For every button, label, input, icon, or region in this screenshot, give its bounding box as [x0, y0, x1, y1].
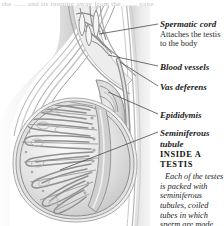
label-spermatic-cord: Spermatic cord Attaches the testis to th… — [160, 19, 220, 49]
label-blood-vessels: Blood vessels — [160, 62, 209, 73]
label-spermatic-cord-term: Spermatic cord — [160, 19, 220, 30]
note-heading-line1: INSIDE A — [160, 150, 224, 160]
label-spermatic-cord-desc-line1: Attaches the testis — [160, 30, 220, 40]
label-epididymis: Epididymis — [160, 110, 202, 121]
note-heading-line2: TESTIS — [160, 160, 224, 170]
label-epididymis-term: Epididymis — [160, 110, 202, 121]
label-spermatic-cord-desc-line2: to the body — [160, 39, 220, 49]
illustration-body — [0, 6, 150, 226]
testis-body — [13, 98, 137, 222]
testis-illustration — [0, 6, 150, 226]
label-seminiferous-tubule-term: Seminiferous tubule — [160, 128, 222, 149]
note-body-text: Each of the testes is packed with semini… — [160, 172, 224, 226]
figure-page: the ...... and its running away from the… — [0, 0, 224, 226]
label-seminiferous-tubule: Seminiferous tubule — [160, 128, 222, 149]
inside-a-testis-note: INSIDE A TESTIS Each of the testes is pa… — [160, 150, 224, 226]
label-vas-deferens: Vas deferens — [160, 82, 207, 93]
label-blood-vessels-term: Blood vessels — [160, 62, 209, 73]
label-vas-deferens-term: Vas deferens — [160, 82, 207, 93]
